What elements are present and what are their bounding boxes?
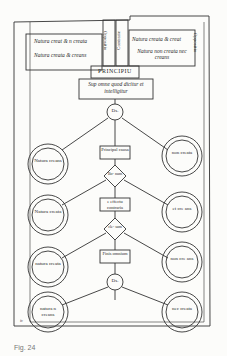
top-right-line1: Natura creata & creat [132,36,181,42]
figure-caption: Fig. 24 [14,344,35,351]
diamond-1-label: Bo- num [106,172,124,177]
circle-label-natura-n-creans: natura n creans [34,306,62,318]
circle-label-natura-creata: Natura creata [34,209,62,215]
bottom-small-circle-label: Ds. [108,278,122,283]
top-left-line2: Natura creata & creans [34,52,86,58]
corner-mark: iv [20,318,23,323]
circle-label-non-creans: non cre ans [168,256,196,262]
super-box-text: Sup omne quod dicitur et intelligitur [82,81,150,95]
top-small-circle-label: Ds. [108,108,122,113]
circle-label-nec-creata: nec creata [168,306,196,312]
circle-label-et-creans: et cre ans [168,206,196,212]
vertical-label-oppositio-left: Oppositio [103,31,108,51]
vertical-label-contrarie: Contrarie [116,31,121,50]
principium-label: PRINCIPIU [93,68,137,74]
circle-label-non-creata: non creata [168,150,196,156]
circle-label-natura-creans: Natura creans [34,158,62,164]
circle-label-natura-creata-2: natura creata [34,261,62,267]
top-left-line1: Natura creat & n creata [34,38,87,44]
vertical-label-oppositio-right: Oppositio [193,33,198,53]
center-box-1-label: Principal causa [100,147,130,153]
top-right-line2: Natura non creata nec creans [132,48,192,60]
center-box-3-label: Finis omnium [100,251,130,257]
diamond-2-label: cle- sum [106,225,124,230]
center-box-2-label: e effectu contraria [100,199,130,210]
